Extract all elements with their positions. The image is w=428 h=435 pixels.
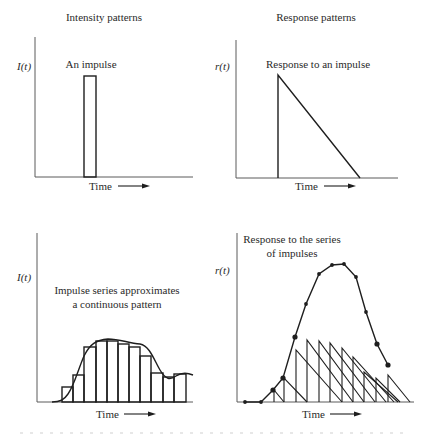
response-dot	[243, 400, 247, 404]
x-axis-label: Time	[96, 408, 119, 420]
summed-response-line	[245, 264, 388, 402]
response-dot	[374, 341, 379, 346]
y-axis-label: r(t)	[215, 60, 230, 73]
response-dot	[342, 262, 346, 266]
response-dot	[292, 334, 297, 339]
response-triangle	[278, 75, 360, 178]
arrow-right-icon	[124, 412, 156, 417]
annotation-line-1: Response to the series	[243, 233, 340, 245]
panel-impulse: I(t) An impulse Time	[16, 37, 193, 192]
response-dot	[364, 310, 368, 314]
response-dot	[270, 387, 275, 392]
annotation-line-2: a continuous pattern	[72, 298, 162, 310]
response-dot	[304, 302, 308, 306]
impulse-response-triangle	[388, 375, 410, 402]
response-dot	[385, 362, 390, 367]
impulse-bar	[174, 374, 186, 402]
annotation: Response to an impulse	[266, 58, 370, 70]
arrow-right-icon	[324, 184, 356, 189]
x-axis-label: Time	[89, 180, 112, 192]
impulse-bar	[84, 76, 96, 177]
impulse-bar	[118, 344, 129, 402]
response-dot	[354, 275, 358, 279]
arrow-right-icon	[330, 412, 362, 417]
impulse-bar	[84, 347, 96, 402]
response-dot	[259, 400, 263, 404]
impulse-bar	[151, 373, 163, 402]
impulse-bar	[107, 341, 118, 402]
y-axis-label: I(t)	[16, 60, 31, 73]
response-triangle	[278, 75, 360, 178]
impulse-bar	[140, 356, 151, 402]
response-dot	[280, 375, 285, 380]
x-axis-label: Time	[302, 408, 325, 420]
impulse-response-triangle	[364, 372, 398, 402]
header-response-patterns: Response patterns	[276, 11, 356, 23]
panel-impulse-series: I(t) Impulse series approximates a conti…	[16, 233, 193, 420]
panel-response-to-series: r(t) Response to the series of impulses …	[215, 233, 414, 420]
impulse-response-triangle	[274, 390, 284, 402]
header-intensity-patterns: Intensity patterns	[66, 11, 142, 23]
response-dot	[317, 272, 321, 276]
annotation-line-1: Impulse series approximates	[54, 284, 179, 296]
annotation-line-2: of impulses	[266, 247, 317, 259]
impulse-bar	[163, 377, 174, 402]
impulse-bar	[96, 341, 107, 402]
impulse-bar	[129, 347, 140, 402]
y-axis-label: I(t)	[16, 271, 31, 284]
annotation: An impulse	[65, 58, 116, 70]
x-axis-label: Time	[295, 180, 318, 192]
impulse-bars	[62, 341, 186, 402]
impulse-response-figure: Intensity patterns Response patterns I(t…	[0, 0, 428, 435]
arrow-right-icon	[118, 184, 150, 189]
summed-response-curve	[243, 262, 391, 404]
response-dot	[330, 263, 334, 267]
y-axis-label: r(t)	[215, 264, 230, 277]
panel-response-to-impulse: r(t) Response to an impulse Time	[215, 40, 398, 192]
impulse-bar	[84, 76, 96, 177]
impulse-response-triangles	[274, 340, 410, 402]
